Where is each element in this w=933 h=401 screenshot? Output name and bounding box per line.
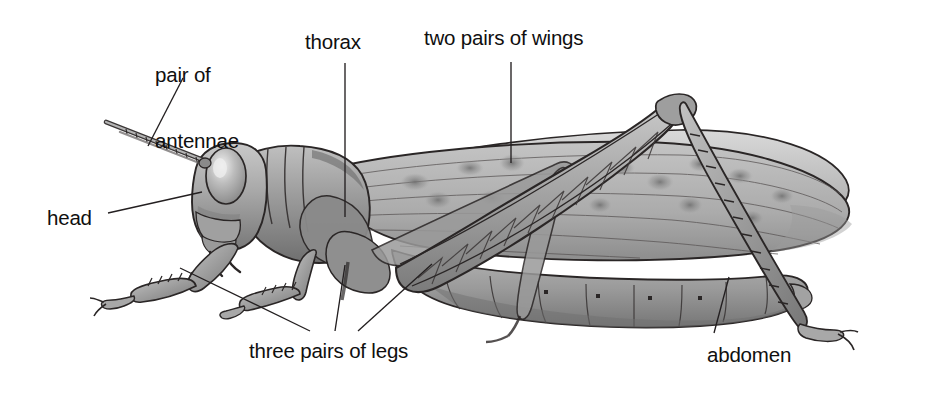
label-pair-of-antennae-line2: antennae <box>155 130 239 152</box>
label-three-pairs-of-legs: three pairs of legs <box>249 340 408 362</box>
label-thorax: thorax <box>305 31 361 53</box>
label-pair-of-antennae-line1: pair of <box>155 64 239 86</box>
grasshopper-illustration <box>0 0 933 401</box>
figure-canvas: pair of antennae thorax two pairs of win… <box>0 0 933 401</box>
front-leg-shape <box>90 244 238 316</box>
label-pair-of-antennae: pair of antennae <box>155 20 239 196</box>
label-abdomen: abdomen <box>707 344 791 366</box>
leader-leg-front <box>180 268 310 331</box>
label-head: head <box>47 207 92 229</box>
label-two-pairs-of-wings: two pairs of wings <box>424 27 583 49</box>
